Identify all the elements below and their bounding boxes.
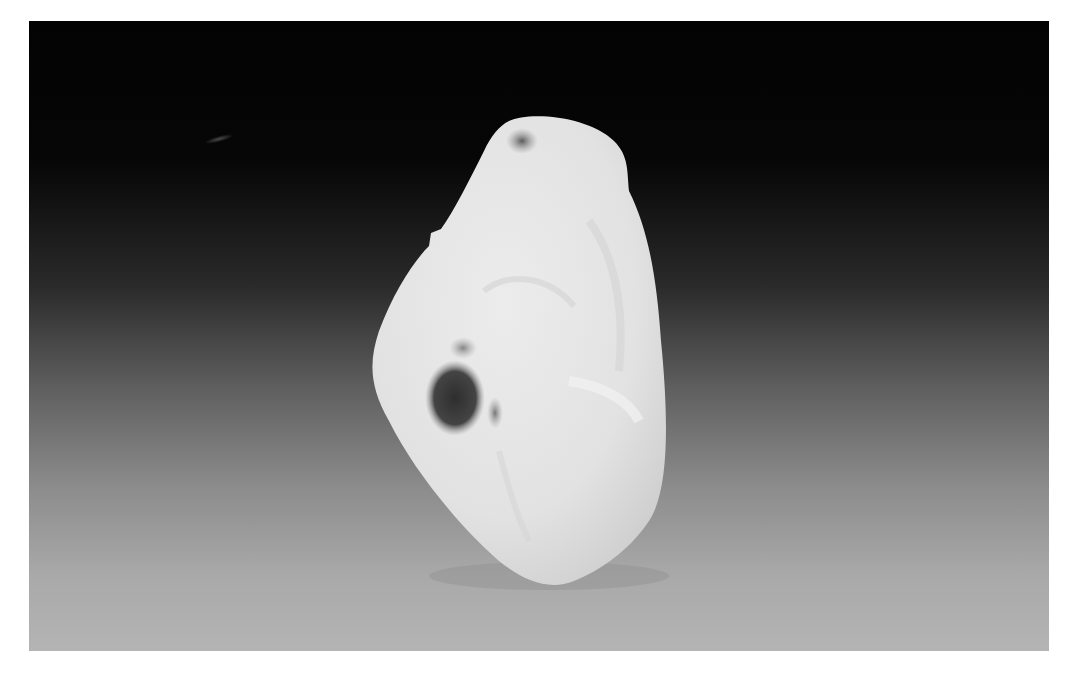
inclusion-main — [425, 360, 485, 436]
inclusion-top — [506, 128, 538, 154]
photograph — [29, 21, 1049, 651]
jade-carving — [29, 21, 1049, 651]
